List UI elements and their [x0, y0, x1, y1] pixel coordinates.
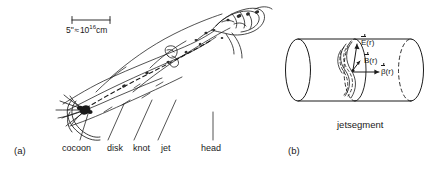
panel-b-tag: (b) [288, 146, 300, 156]
jet-axis-dashed [86, 41, 210, 108]
cylinder-right-cap-back [399, 39, 412, 101]
cocoon-envelope-upper [63, 31, 216, 110]
scale-bar-label: 5" ≈ 1016cm [66, 26, 107, 35]
cocoon-label: cocoon [62, 144, 91, 153]
vector-origin-dot [352, 69, 355, 72]
scale-bar-unit: cm [96, 25, 107, 35]
knot-label: knot [133, 144, 150, 153]
magnetic-field-symbol: B [364, 57, 369, 65]
head-bowshock [196, 7, 272, 58]
head-shock-stipple [195, 10, 260, 41]
jet-segment-caption: jetsegment [337, 120, 383, 130]
velocity-field-symbol: β [381, 68, 386, 76]
velocity-field-arg: (r) [386, 67, 394, 76]
jet-label: jet [161, 144, 171, 153]
electric-field-symbol: E [361, 39, 366, 47]
filament-dashes [104, 82, 163, 112]
magnetic-field-label: B(r) [364, 57, 377, 65]
figure-canvas: 5" ≈ 1016cm (a) cocoon disk knot jet hea… [0, 0, 433, 173]
cylinder-left-cap [286, 39, 311, 101]
electric-field-arg: (r) [366, 38, 374, 47]
cylinder-right-cap-front [411, 39, 424, 101]
magnetic-field-arg: (r) [369, 56, 377, 65]
scale-bar-glyph [72, 17, 110, 24]
head-label: head [201, 144, 221, 153]
velocity-field-label: β(r) [381, 68, 394, 76]
panel-b-linework [286, 39, 424, 101]
scale-bar-mantissa: 10 [80, 25, 89, 35]
cocoon-core-blob [77, 104, 93, 117]
scale-bar-approx: ≈ [74, 25, 79, 35]
panel-a-tag: (a) [14, 146, 26, 156]
leader-lines [80, 100, 213, 140]
mid-jet-knot-sketch [165, 46, 178, 67]
electric-field-label: E(r) [361, 39, 374, 47]
disk-label: disk [107, 144, 123, 153]
lobe-sweep [96, 14, 230, 92]
